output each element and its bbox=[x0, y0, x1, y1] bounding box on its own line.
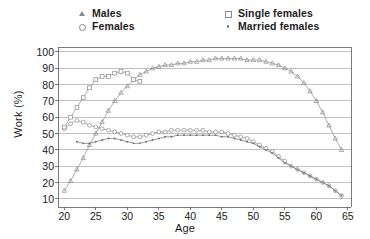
data-point-marker bbox=[232, 56, 236, 60]
data-point-marker bbox=[322, 182, 324, 184]
data-point-marker bbox=[133, 142, 135, 144]
data-point-marker bbox=[163, 130, 167, 134]
data-point-marker bbox=[119, 132, 123, 136]
data-point-marker bbox=[240, 139, 242, 141]
data-point-marker bbox=[221, 136, 223, 138]
data-point-marker bbox=[196, 134, 198, 136]
data-point-marker bbox=[251, 58, 255, 62]
data-point-marker bbox=[245, 137, 249, 141]
data-point-marker bbox=[164, 136, 166, 138]
data-point-marker bbox=[94, 78, 98, 82]
data-point-marker bbox=[201, 128, 205, 132]
data-point-marker bbox=[125, 71, 129, 75]
data-point-marker bbox=[107, 128, 111, 132]
data-point-marker bbox=[201, 58, 205, 62]
data-point-marker bbox=[107, 74, 111, 78]
data-point-marker bbox=[214, 130, 218, 134]
data-point-marker bbox=[278, 157, 280, 159]
data-point-marker bbox=[100, 74, 104, 78]
data-point-marker bbox=[296, 168, 298, 170]
data-point-marker bbox=[177, 134, 179, 136]
data-point-marker bbox=[114, 137, 116, 139]
data-point-marker bbox=[152, 139, 154, 141]
data-point-marker bbox=[239, 56, 243, 60]
data-point-marker bbox=[334, 190, 336, 192]
data-point-marker bbox=[157, 130, 161, 134]
data-point-marker bbox=[341, 195, 343, 197]
data-point-marker bbox=[259, 146, 261, 148]
data-point-marker bbox=[176, 128, 180, 132]
data-point-marker bbox=[95, 141, 97, 143]
data-point-marker bbox=[120, 139, 122, 141]
data-point-marker bbox=[226, 56, 230, 60]
chart-figure: Males Females Single females Married fem… bbox=[0, 0, 370, 239]
data-point-marker bbox=[125, 133, 129, 137]
data-point-marker bbox=[257, 58, 261, 62]
data-point-marker bbox=[69, 122, 73, 126]
data-point-marker bbox=[75, 119, 79, 123]
data-point-marker bbox=[283, 66, 287, 70]
data-point-marker bbox=[170, 128, 174, 132]
data-point-marker bbox=[233, 133, 237, 137]
data-point-marker bbox=[69, 115, 73, 119]
data-point-marker bbox=[188, 128, 192, 132]
data-point-marker bbox=[195, 128, 199, 132]
data-point-marker bbox=[138, 79, 142, 83]
data-point-marker bbox=[158, 137, 160, 139]
series-line bbox=[77, 135, 342, 195]
data-point-marker bbox=[81, 120, 85, 124]
data-point-marker bbox=[132, 135, 136, 139]
data-point-marker bbox=[226, 132, 230, 136]
data-point-marker bbox=[82, 142, 84, 144]
data-point-marker bbox=[220, 56, 224, 60]
data-point-marker bbox=[132, 78, 136, 82]
data-point-marker bbox=[202, 134, 204, 136]
data-point-marker bbox=[207, 130, 211, 134]
data-point-marker bbox=[227, 136, 229, 138]
data-point-marker bbox=[138, 135, 142, 139]
data-point-marker bbox=[239, 135, 243, 139]
data-point-marker bbox=[62, 125, 66, 129]
data-point-marker bbox=[309, 175, 311, 177]
data-point-marker bbox=[138, 72, 142, 76]
data-point-marker bbox=[284, 162, 286, 164]
data-point-marker bbox=[208, 134, 210, 136]
data-point-marker bbox=[246, 141, 248, 143]
data-point-marker bbox=[144, 69, 148, 73]
data-point-marker bbox=[271, 152, 273, 154]
data-point-marker bbox=[213, 56, 217, 60]
data-point-marker bbox=[88, 86, 92, 90]
plot-area bbox=[0, 0, 370, 239]
data-point-marker bbox=[265, 149, 267, 151]
data-point-marker bbox=[113, 130, 117, 134]
data-point-marker bbox=[89, 142, 91, 144]
data-point-marker bbox=[107, 137, 109, 139]
data-point-marker bbox=[315, 178, 317, 180]
data-point-marker bbox=[94, 125, 98, 129]
series-married-females bbox=[76, 134, 343, 196]
data-point-marker bbox=[220, 130, 224, 134]
data-point-marker bbox=[101, 139, 103, 141]
data-point-marker bbox=[75, 106, 79, 110]
series-females bbox=[62, 119, 343, 198]
data-point-marker bbox=[81, 96, 85, 100]
data-point-marker bbox=[144, 133, 148, 137]
data-point-marker bbox=[145, 141, 147, 143]
data-point-marker bbox=[126, 141, 128, 143]
data-point-marker bbox=[189, 134, 191, 136]
data-point-marker bbox=[182, 128, 186, 132]
data-point-marker bbox=[188, 59, 192, 63]
data-point-marker bbox=[113, 71, 117, 75]
data-point-marker bbox=[119, 70, 123, 74]
data-point-marker bbox=[76, 141, 78, 143]
data-point-marker bbox=[233, 137, 235, 139]
data-point-marker bbox=[100, 127, 104, 131]
data-point-marker bbox=[215, 134, 217, 136]
data-point-marker bbox=[170, 136, 172, 138]
data-point-marker bbox=[289, 69, 293, 73]
data-point-marker bbox=[183, 134, 185, 136]
data-point-marker bbox=[176, 61, 180, 65]
data-point-marker bbox=[139, 142, 141, 144]
data-point-marker bbox=[290, 165, 292, 167]
data-point-marker bbox=[252, 142, 254, 144]
